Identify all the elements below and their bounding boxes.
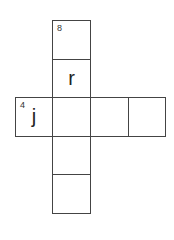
cell-letter: j [16, 105, 52, 128]
crossword-cell[interactable] [52, 174, 91, 214]
crossword-cell[interactable] [52, 136, 91, 175]
crossword-cell[interactable] [90, 97, 129, 137]
clue-number: 8 [57, 23, 62, 33]
crossword-cell[interactable] [52, 97, 91, 137]
crossword-cell[interactable]: 8 [52, 20, 91, 60]
cell-letter: r [53, 67, 90, 90]
crossword-cell[interactable] [128, 97, 166, 137]
crossword-cell[interactable]: 4j [15, 97, 53, 137]
crossword-cell[interactable]: r [52, 59, 91, 98]
